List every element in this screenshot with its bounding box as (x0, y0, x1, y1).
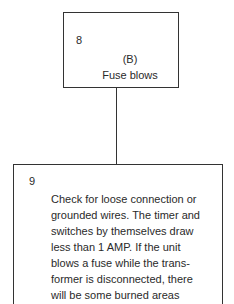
node-text: Fuse blows (82, 67, 178, 83)
flowchart-node-8: 8 (B) Fuse blows (63, 12, 179, 88)
node-text: Check for loose connection or grounded w… (51, 191, 221, 303)
node-label: (B) (82, 51, 178, 67)
node-number: 8 (76, 34, 82, 46)
connector-line (116, 88, 117, 164)
node-number: 9 (29, 175, 35, 187)
flowchart-node-9: 9 Check for loose connection or grounded… (13, 164, 223, 304)
node-content: (B) Fuse blows (64, 51, 178, 83)
